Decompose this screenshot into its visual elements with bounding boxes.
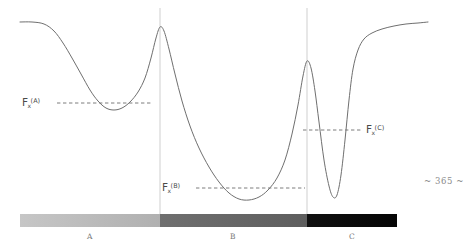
basin-b-label-sup: (B) bbox=[171, 183, 181, 190]
basin-a-label-sup: (A) bbox=[31, 98, 41, 105]
colorbar-segment-c bbox=[307, 214, 397, 227]
free-energy-figure bbox=[0, 0, 473, 247]
basin-b-energy-label: Fx(B) bbox=[162, 182, 180, 194]
colorbar-tick-label-c: C bbox=[332, 232, 372, 241]
colorbar-segment-b bbox=[160, 214, 307, 227]
free-energy-curve bbox=[20, 22, 428, 200]
basin-c-energy-label: Fx(C) bbox=[366, 124, 384, 136]
dashed-level-lines bbox=[57, 103, 362, 188]
colorbar bbox=[20, 214, 397, 227]
colorbar-tick-label-a: A bbox=[70, 232, 110, 241]
basin-a-energy-label: Fx(A) bbox=[22, 97, 40, 109]
colorbar-tick-label-b: B bbox=[213, 232, 253, 241]
basin-c-label-sup: (C) bbox=[375, 125, 385, 132]
figure-page: Fx(A) Fx(B) Fx(C) A B C ~ 365 ~ bbox=[0, 0, 473, 247]
page-folio: ~ 365 ~ bbox=[424, 176, 464, 186]
colorbar-segment-a bbox=[20, 214, 160, 227]
divider-lines bbox=[160, 8, 307, 215]
